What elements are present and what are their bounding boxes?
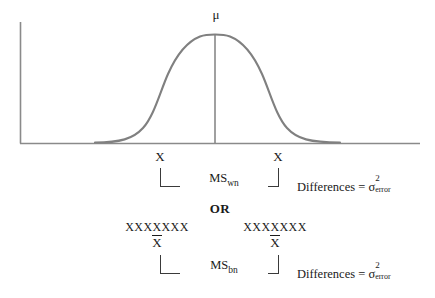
between-differences-text: Differences = bbox=[297, 267, 365, 281]
between-groups-bracket-label: MSbn bbox=[180, 259, 268, 277]
within-differences-expression: Differences = σ2error bbox=[297, 180, 375, 194]
bell-curve-path bbox=[95, 34, 340, 142]
within-differences-text: Differences = bbox=[297, 180, 365, 194]
within-sigma-squared-error: σ2error bbox=[368, 180, 375, 194]
between-group-1-mean-symbol: X bbox=[152, 235, 161, 249]
within-right-score: X bbox=[268, 150, 288, 164]
ms-wn-sub: wn bbox=[227, 178, 239, 188]
between-sigma-symbol: σ bbox=[368, 267, 375, 281]
between-sigma-squared-error: σ2error bbox=[368, 267, 375, 281]
within-left-score: X bbox=[150, 150, 170, 164]
within-sigma-superscript: 2 bbox=[375, 174, 380, 183]
distribution-plot: μ bbox=[0, 0, 435, 150]
between-group-2: XXXXXXX X bbox=[230, 221, 320, 250]
or-divider-label: OR bbox=[190, 202, 250, 216]
between-group-2-scores: XXXXXXX bbox=[230, 221, 320, 234]
between-group-1-scores: XXXXXXX bbox=[112, 221, 202, 234]
mu-label: μ bbox=[205, 8, 227, 22]
ms-bn-sub: bn bbox=[228, 265, 238, 275]
between-group-2-mean: X bbox=[230, 235, 320, 250]
within-sigma-subscript: error bbox=[375, 186, 391, 194]
between-group-1: XXXXXXX X bbox=[112, 221, 202, 250]
ms-bn-main: MS bbox=[210, 258, 228, 272]
ms-wn-main: MS bbox=[209, 171, 227, 185]
figure-root: μ X X MSwn Differences = σ2error OR XXXX… bbox=[0, 0, 435, 298]
between-group-2-mean-symbol: X bbox=[270, 235, 279, 249]
normal-distribution-curve bbox=[0, 0, 435, 150]
within-sigma-symbol: σ bbox=[368, 180, 375, 194]
between-group-1-mean: X bbox=[112, 235, 202, 250]
within-groups-bracket-label: MSwn bbox=[180, 172, 268, 190]
between-sigma-superscript: 2 bbox=[375, 261, 380, 270]
between-sigma-subscript: error bbox=[375, 273, 391, 281]
between-differences-expression: Differences = σ2error bbox=[297, 267, 375, 281]
